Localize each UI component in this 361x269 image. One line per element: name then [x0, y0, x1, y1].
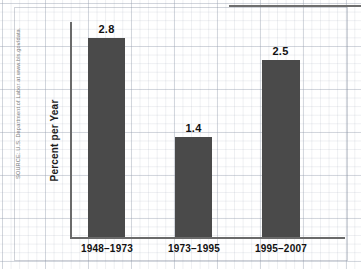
- category-label-2: 1973–1995: [163, 243, 225, 254]
- bar-chart-plot-area: Percent per Year 2.8 1948–1973 1.4 1973–…: [0, 0, 361, 269]
- bar-2-value-label: 1.4: [173, 122, 214, 134]
- bar-3-value-label: 2.5: [260, 45, 301, 57]
- y-axis-title: Percent per Year: [49, 81, 60, 201]
- category-label-3: 1995–2007: [250, 243, 312, 254]
- bar-3: [262, 60, 300, 237]
- category-label-1: 1948–1973: [76, 243, 138, 254]
- bar-2: [175, 137, 212, 237]
- bar-1-value-label: 2.8: [86, 23, 127, 35]
- chart-screenshot: SOURCE: U.S. Department of Labor at www.…: [0, 0, 361, 269]
- x-axis-line: [70, 237, 345, 239]
- bar-1: [88, 38, 125, 237]
- y-axis-line: [70, 22, 72, 238]
